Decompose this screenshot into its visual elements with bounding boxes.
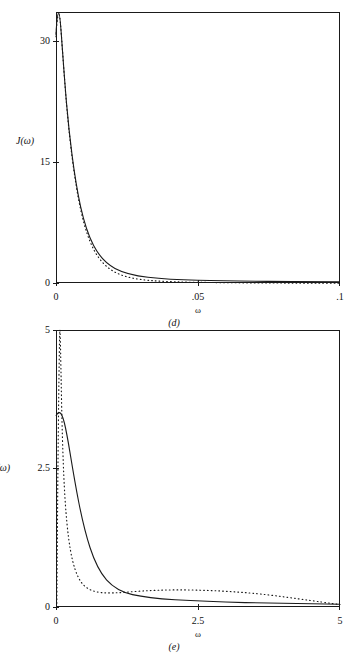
y-tick-label-e-5: 5 [18, 325, 50, 335]
y-tick-label-d-30: 30 [18, 36, 50, 46]
y-axis-label-text-e: J(ω) [0, 462, 10, 473]
x-tick-e-0 [56, 604, 57, 610]
curve-solid-e [56, 413, 340, 605]
x-tick-d-mid [198, 280, 199, 286]
plot-curves-d [0, 0, 348, 330]
x-tick-e-mid [198, 604, 199, 610]
x-tick-e-max [339, 604, 340, 610]
x-tick-label-d-mid: .05 [184, 292, 212, 302]
x-axis-label-e: ω [184, 630, 212, 639]
y-axis-label-e: J(ω) [0, 463, 10, 473]
x-tick-label-d-max: .1 [326, 292, 348, 302]
y-tick-label-e-0: 0 [18, 602, 50, 612]
x-axis-label-text-e: ω [195, 629, 201, 639]
y-tick-label-d-15: 15 [18, 157, 50, 167]
x-axis-label-d: ω [184, 306, 212, 315]
y-tick-e-25 [53, 468, 59, 469]
x-tick-d-0 [56, 280, 57, 286]
x-tick-label-e-max: 5 [326, 616, 348, 626]
figure-d: 0 15 30 J(ω) 0 .05 .1 ω (d) [0, 0, 348, 330]
curve-solid-d [56, 13, 340, 282]
plot-curves-e [0, 320, 348, 656]
x-tick-label-d-0: 0 [42, 292, 70, 302]
x-tick-label-e-mid: 2.5 [184, 616, 212, 626]
y-tick-label-d-0: 0 [18, 278, 50, 288]
y-tick-d-30 [53, 41, 59, 42]
y-tick-d-15 [53, 162, 59, 163]
x-tick-d-max [339, 280, 340, 286]
y-axis-label-d: J(ω) [16, 136, 34, 146]
y-axis-label-text-d: J(ω) [16, 135, 34, 146]
curve-dotted-e [57, 330, 340, 607]
x-axis-label-text-d: ω [195, 305, 201, 315]
curve-dotted-d [56, 15, 340, 284]
figure-e: 0 2.5 5 J(ω) 0 2.5 5 ω (e) [0, 320, 348, 656]
y-tick-e-5 [53, 330, 59, 331]
x-tick-label-e-0: 0 [42, 616, 70, 626]
figure-caption-text-e: (e) [168, 641, 179, 652]
y-tick-label-e-25: 2.5 [18, 463, 50, 473]
figure-caption-e: (e) [0, 642, 348, 652]
